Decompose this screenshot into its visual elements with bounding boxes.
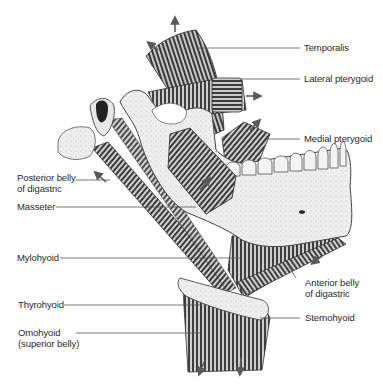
label-medial-pterygoid: Medial pterygoid — [304, 133, 372, 144]
label-sternohyoid: Sternohyoid — [305, 312, 355, 323]
label-temporalis: Temporalis — [304, 42, 349, 53]
label-mylohyoid: Mylohyoid — [17, 252, 59, 263]
mental-foramen — [299, 210, 305, 214]
label-lateral-pterygoid: Lateral pterygoid — [304, 73, 373, 84]
label-thyrohyoid: Thyrohyoid — [18, 299, 64, 310]
label-anterior-belly-digastric: Anterior belly of digastric — [305, 277, 359, 299]
label-masseter: Masseter — [17, 201, 55, 212]
label-omohyoid: Omohyoid (superior belly) — [18, 327, 79, 349]
label-posterior-belly-digastric: Posterior belly of digastric — [17, 172, 76, 194]
